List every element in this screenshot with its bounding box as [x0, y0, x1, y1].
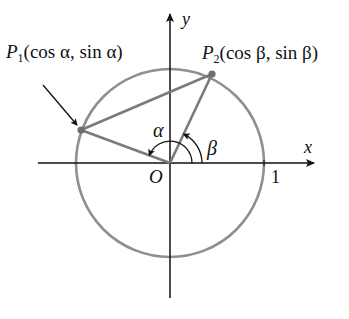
p2-coords: (cos β, sin β) [220, 42, 319, 63]
p1-name: P [6, 41, 18, 62]
angle-beta-label: β [207, 138, 217, 158]
p1-label: P1(cos α, sin α) [6, 42, 123, 64]
unit-circle-diagram: P1(cos α, sin α) P2(cos β, sin β) y x O … [0, 0, 349, 319]
p1-pointer-arrow [43, 85, 77, 125]
point-p2 [208, 70, 215, 77]
tick-label-one: 1 [271, 168, 280, 186]
segment-o-p2 [170, 74, 212, 163]
segment-p1-p2 [81, 74, 212, 130]
point-p1 [77, 126, 84, 133]
origin-label: O [149, 167, 163, 186]
p2-name: P [202, 42, 214, 63]
p1-coords: (cos α, sin α) [24, 41, 123, 62]
x-axis-label: x [304, 138, 312, 156]
y-axis-label: y [182, 10, 190, 28]
angle-alpha-label: α [153, 120, 164, 140]
p2-label: P2(cos β, sin β) [202, 43, 318, 65]
